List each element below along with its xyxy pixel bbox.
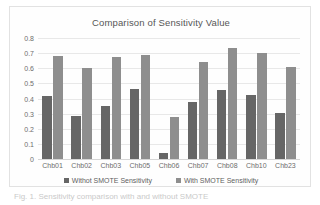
plot-area: 00.10.20.30.40.50.60.70.8	[38, 38, 300, 159]
y-axis-tick-label: 0.5	[24, 80, 34, 87]
bar	[170, 117, 180, 159]
x-axis-tick-label: Chb07	[188, 162, 209, 169]
bar-group	[242, 38, 271, 159]
bar	[246, 95, 256, 159]
bar	[275, 113, 285, 159]
bar	[228, 48, 238, 159]
figure: Comparison of Sensitivity Value 00.10.20…	[0, 0, 320, 205]
bar-group	[184, 38, 213, 159]
gridline	[38, 159, 300, 160]
y-axis-tick-label: 0.7	[24, 50, 34, 57]
bar	[71, 116, 81, 159]
bar-group	[213, 38, 242, 159]
bar-group	[67, 38, 96, 159]
bar	[217, 90, 227, 159]
x-axis-tick-label: Chb06	[159, 162, 180, 169]
bar	[101, 106, 111, 159]
y-axis-tick-label: 0	[30, 156, 34, 163]
bar	[188, 102, 198, 159]
bar-group	[271, 38, 300, 159]
y-axis-tick-label: 0.8	[24, 35, 34, 42]
x-axis-tick-label: Chb03	[100, 162, 121, 169]
bar	[53, 56, 63, 159]
x-axis-tick-label: Chb10	[246, 162, 267, 169]
x-axis-tick-label: Chb02	[71, 162, 92, 169]
legend-swatch-icon	[176, 178, 181, 183]
bar-group	[125, 38, 154, 159]
bar-group	[154, 38, 183, 159]
x-axis-tick-label: Chb01	[42, 162, 63, 169]
bar	[141, 55, 151, 159]
chart-title: Comparison of Sensitivity Value	[10, 17, 312, 28]
chart-container: Comparison of Sensitivity Value 00.10.20…	[9, 6, 311, 187]
bar	[159, 153, 169, 159]
bar	[42, 96, 52, 159]
legend-item[interactable]: With SMOTE Sensitivity	[176, 177, 258, 184]
y-axis-tick-label: 0.1	[24, 140, 34, 147]
bar	[199, 62, 209, 159]
bar	[82, 68, 92, 159]
x-axis-tick-label: Chb05	[130, 162, 151, 169]
bar	[257, 53, 267, 159]
legend-item[interactable]: Withot SMOTE Sensitivity	[64, 177, 152, 184]
x-axis-tick-label: Chb08	[217, 162, 238, 169]
y-axis-tick-label: 0.6	[24, 65, 34, 72]
bar-group	[38, 38, 67, 159]
figure-caption: Fig. 1. Sensitivity comparison with and …	[14, 192, 314, 203]
legend-label: Withot SMOTE Sensitivity	[72, 177, 152, 184]
y-axis-tick-label: 0.2	[24, 125, 34, 132]
legend-label: With SMOTE Sensitivity	[184, 177, 258, 184]
legend-swatch-icon	[64, 178, 69, 183]
y-axis-tick-label: 0.4	[24, 95, 34, 102]
bar	[130, 89, 140, 159]
x-axis-tick-label: Chb23	[275, 162, 296, 169]
chart-legend: Withot SMOTE SensitivityWith SMOTE Sensi…	[10, 177, 312, 184]
bars-layer	[38, 38, 300, 159]
bar	[286, 67, 296, 159]
y-axis-tick-label: 0.3	[24, 110, 34, 117]
bar	[112, 57, 122, 159]
x-axis-tick-labels: Chb01Chb02Chb03Chb05Chb06Chb07Chb08Chb10…	[38, 162, 300, 174]
bar-group	[96, 38, 125, 159]
